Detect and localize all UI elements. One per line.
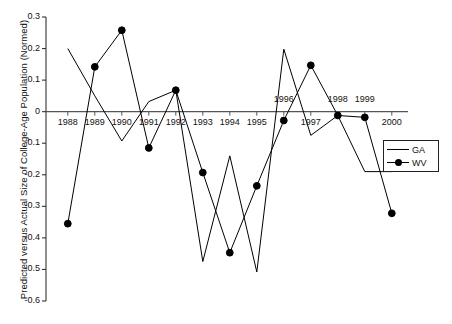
x-tick-label: 1997 [291, 117, 331, 127]
series-marker-wv [334, 112, 341, 119]
x-tick-label: 1999 [345, 94, 385, 104]
y-tick-label: -0.1 [0, 137, 40, 147]
y-tick-label: -0.3 [0, 200, 40, 210]
line-marker-swatch-icon [387, 157, 409, 169]
x-tick-label: 2000 [372, 117, 412, 127]
y-tick-label: -0.2 [0, 169, 40, 179]
series-marker-wv [172, 87, 179, 94]
series-marker-wv [280, 117, 287, 124]
series-marker-wv [145, 145, 152, 152]
series-line-wv [68, 30, 392, 252]
legend-entry-wv: WV [387, 156, 427, 170]
y-tick-label: -0.5 [0, 263, 40, 273]
series-line-ga [68, 49, 392, 272]
series-marker-wv [199, 169, 206, 176]
y-tick-label: 0.1 [0, 74, 40, 84]
data-series-group [64, 27, 395, 272]
series-marker-wv [118, 27, 125, 34]
y-tick-label: 0 [0, 106, 40, 116]
series-marker-wv [226, 249, 233, 256]
y-tick-label: 0.2 [0, 43, 40, 53]
series-marker-wv [307, 62, 314, 69]
series-marker-wv [64, 220, 71, 227]
series-marker-wv [91, 63, 98, 70]
y-axis [42, 17, 46, 301]
series-marker-wv [388, 210, 395, 217]
chart-legend: GA WV [383, 140, 439, 172]
line-swatch-icon [387, 144, 409, 156]
y-tick-label: -0.6 [0, 295, 40, 305]
legend-entry-ga: GA [387, 143, 425, 157]
series-marker-wv [361, 114, 368, 121]
chart-container: Predicted versus Actual Size of College-… [0, 0, 452, 324]
y-tick-label: 0.3 [0, 11, 40, 21]
series-marker-wv [253, 182, 260, 189]
x-tick-label: 1995 [237, 117, 277, 127]
y-tick-label: -0.4 [0, 232, 40, 242]
legend-label-wv: WV [412, 159, 427, 168]
x-tick-label: 1996 [264, 94, 304, 104]
x-axis [46, 112, 408, 116]
legend-label-ga: GA [412, 146, 425, 155]
